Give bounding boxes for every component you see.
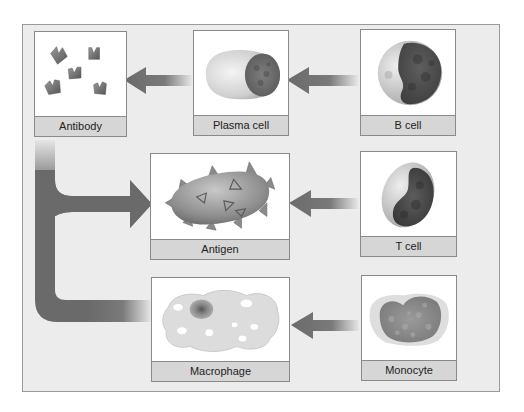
antigen-art	[151, 154, 289, 239]
node-plasma-cell: Plasma cell	[193, 30, 289, 136]
b-cell-icon	[361, 30, 455, 115]
arrow-bcell-to-plasma	[287, 67, 358, 94]
node-label: Antigen	[151, 239, 289, 259]
node-t-cell: T cell	[360, 151, 457, 257]
node-label: B cell	[361, 115, 455, 135]
node-antigen: Antigen	[150, 153, 290, 260]
plasma-cell-icon	[194, 31, 288, 115]
node-label: Plasma cell	[194, 115, 288, 135]
antibody-icon	[35, 32, 126, 116]
node-label: Antibody	[35, 116, 126, 136]
b-cell-art	[361, 30, 455, 115]
arrow-plasma-to-antibody	[124, 67, 192, 94]
arrow-tcell-to-antigen	[289, 190, 358, 217]
node-label: Macrophage	[152, 361, 289, 381]
antibody-art	[35, 32, 126, 116]
t-cell-icon	[361, 152, 456, 236]
node-monocyte: Monocyte	[361, 275, 457, 381]
antigen-icon	[151, 154, 289, 239]
node-b-cell: B cell	[360, 29, 456, 136]
plasma-cell-art	[194, 31, 288, 115]
macrophage-icon	[152, 278, 289, 361]
node-macrophage: Macrophage	[151, 277, 290, 382]
node-label: T cell	[361, 236, 456, 256]
arrow-merge-to-antigen	[35, 140, 152, 322]
t-cell-art	[361, 152, 456, 236]
monocyte-art	[362, 276, 456, 360]
arrow-monocyte-to-macrophage	[291, 312, 359, 339]
node-label: Monocyte	[362, 360, 456, 380]
macrophage-art	[152, 278, 289, 361]
monocyte-icon	[362, 276, 456, 360]
node-antibody: Antibody	[34, 31, 127, 137]
